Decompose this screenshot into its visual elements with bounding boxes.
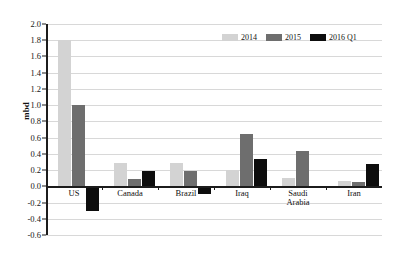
bar-2016-q1 [86, 186, 99, 210]
x-axis-category-label: Iran [347, 189, 361, 198]
bar-group-bars [214, 24, 270, 235]
x-axis-category-label: Saudi Arabia [286, 189, 309, 207]
bar-2016-q1 [142, 171, 155, 186]
y-axis-tick-label: -0.6 [28, 230, 41, 240]
y-axis-tick-label: 0.6 [30, 133, 41, 143]
legend-swatch-icon [222, 34, 238, 41]
bar-group-bars [326, 24, 382, 235]
bar-group-bars [158, 24, 214, 235]
y-axis-tick-label: 0.2 [30, 165, 41, 175]
y-axis-tick-label: 1.2 [30, 84, 41, 94]
y-axis-tick-label: -0.2 [28, 198, 41, 208]
x-axis-category-label: US [69, 189, 80, 198]
bar-2015 [184, 171, 197, 186]
gridline [46, 235, 382, 236]
y-axis-tick-label: 2.0 [30, 19, 41, 29]
bar-group-bars [102, 24, 158, 235]
legend-item: 2014 [222, 33, 257, 42]
bar-group: US [46, 24, 102, 235]
y-axis-tick-label: 1.8 [30, 35, 41, 45]
x-axis-tick-mark [270, 186, 271, 190]
bar-group: Iraq [214, 24, 270, 235]
x-axis-category-label: Brazil [176, 189, 197, 198]
legend: 201420152016 Q1 [222, 33, 357, 42]
bar-2015 [72, 105, 85, 186]
legend-item: 2016 Q1 [310, 33, 357, 42]
x-axis-category-label: Canada [117, 189, 143, 198]
plot-area: 2.01.81.61.41.21.00.80.60.40.20.0-0.2-0.… [46, 24, 382, 235]
x-axis-tick-mark [102, 186, 103, 190]
bar-group: Canada [102, 24, 158, 235]
x-axis-tick-mark [214, 186, 215, 190]
bar-group-bars [46, 24, 102, 235]
bar-2016-q1 [254, 159, 267, 187]
bar-2015 [128, 179, 141, 186]
bar-group: Brazil [158, 24, 214, 235]
y-axis-tick-label: 1.0 [30, 100, 41, 110]
bar-2014 [282, 178, 295, 186]
x-axis-tick-mark [326, 186, 327, 190]
legend-label: 2015 [285, 33, 301, 42]
legend-item: 2015 [266, 33, 301, 42]
y-axis-tick-label: -0.4 [28, 214, 41, 224]
bar-2015 [296, 151, 309, 187]
bar-2015 [240, 134, 253, 186]
bar-chart: mbd 2.01.81.61.41.21.00.80.60.40.20.0-0.… [0, 0, 396, 258]
legend-label: 2016 Q1 [329, 33, 357, 42]
legend-label: 2014 [241, 33, 257, 42]
bar-2014 [58, 40, 71, 186]
x-axis-category-label: Iraq [235, 189, 249, 198]
y-axis-tick-label: 0.8 [30, 116, 41, 126]
bar-group: Iran [326, 24, 382, 235]
bar-2016-q1 [366, 164, 379, 186]
bar-2014 [170, 163, 183, 187]
bar-group: Saudi Arabia [270, 24, 326, 235]
bar-2014 [114, 163, 127, 187]
bar-2014 [226, 170, 239, 186]
y-axis-tick-label: 1.6 [30, 51, 41, 61]
legend-swatch-icon [310, 34, 326, 41]
y-axis-line [46, 24, 48, 235]
y-axis-tick-label: 0.4 [30, 149, 41, 159]
x-axis-tick-mark [158, 186, 159, 190]
legend-swatch-icon [266, 34, 282, 41]
y-axis-tick-label: 1.4 [30, 68, 41, 78]
y-axis-tick-label: 0.0 [30, 181, 41, 191]
